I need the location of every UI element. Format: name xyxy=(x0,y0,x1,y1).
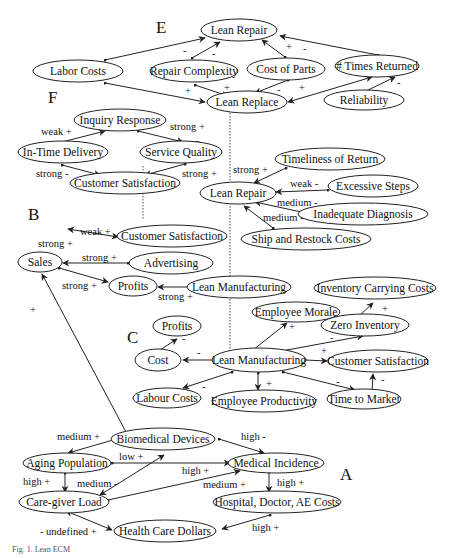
edge-label: - xyxy=(397,77,401,88)
edge-label: high + xyxy=(277,477,304,488)
edge-label: + xyxy=(224,82,230,93)
node-b-sales: Sales xyxy=(18,252,62,272)
edge-label: medium + xyxy=(57,431,100,442)
svg-text:Advertising: Advertising xyxy=(144,257,199,270)
svg-text:Zero Inventory: Zero Inventory xyxy=(330,319,400,332)
svg-text:Profits: Profits xyxy=(162,320,193,332)
edge-label: - xyxy=(381,374,385,385)
edge-label: weak + xyxy=(41,126,72,137)
svg-text:Lean Manufacturing: Lean Manufacturing xyxy=(192,281,286,294)
node-a-health-care-dollars: Health Care Dollars xyxy=(114,520,216,542)
svg-text:Lean Repair: Lean Repair xyxy=(210,187,267,200)
edge-label: strong + xyxy=(182,168,217,179)
section-label-f: F xyxy=(48,88,57,107)
edge-label: weak - xyxy=(290,178,319,189)
svg-text:Reliability: Reliability xyxy=(340,94,389,107)
figure-caption: Fig. 1. Lean ECM xyxy=(12,545,70,554)
edge-label: strong + xyxy=(170,121,205,132)
svg-text:Lean Manufacturing: Lean Manufacturing xyxy=(212,354,306,367)
node-f-in-time-delivery: In-Time Delivery xyxy=(18,141,108,163)
node-c-employee-productivity: Employee Productivity xyxy=(211,390,318,412)
edge-label: + xyxy=(299,82,305,93)
node-a-biomedical-devices: Biomedical Devices xyxy=(111,428,215,450)
node-c-time-to-market: Time to Market xyxy=(327,389,401,409)
svg-text:Employee Productivity: Employee Productivity xyxy=(211,395,318,408)
edge-label: - xyxy=(336,376,340,387)
node-d-ship-restock-costs: Ship and Restock Costs xyxy=(241,228,371,250)
edge-label: - xyxy=(202,381,206,392)
edge-label: strong + xyxy=(38,238,73,249)
svg-text:Customer Satisfaction: Customer Satisfaction xyxy=(327,355,429,367)
node-c-cost: Cost xyxy=(135,349,181,371)
node-a-caregiver-load: Care-giver Load xyxy=(19,491,109,513)
section-label-a: A xyxy=(340,465,353,484)
edge-label: high - xyxy=(241,431,266,442)
svg-text:Time to Market: Time to Market xyxy=(328,393,401,405)
section-label-b: B xyxy=(28,205,39,224)
section-label-e: E xyxy=(156,18,166,37)
svg-text:Employee Morale: Employee Morale xyxy=(255,306,338,319)
node-f-inquiry-response: Inquiry Response xyxy=(74,109,166,131)
node-c-profits: Profits xyxy=(153,316,201,336)
svg-text:Profits: Profits xyxy=(118,280,149,292)
svg-text:Inquiry Response: Inquiry Response xyxy=(80,114,161,127)
svg-text:Excessive Steps: Excessive Steps xyxy=(336,180,410,193)
edge-label: strong + xyxy=(233,164,268,175)
svg-text:Timeliness of Return: Timeliness of Return xyxy=(282,153,379,165)
svg-text:Medical Incidence: Medical Incidence xyxy=(233,457,318,469)
node-c-zero-inventory: Zero Inventory xyxy=(321,314,409,336)
svg-text:Lean Repair: Lean Repair xyxy=(211,24,268,37)
edge-label: high + xyxy=(182,465,209,476)
edge-label: - xyxy=(330,332,334,343)
node-a-hospital-costs: Hospital, Doctor, AE Costs xyxy=(213,491,341,513)
edge-label: medium + xyxy=(203,479,246,490)
svg-text:Care-giver Load: Care-giver Load xyxy=(26,496,102,509)
svg-text:Aging Population: Aging Population xyxy=(26,457,108,470)
node-c-inventory-carrying-costs: Inventory Carrying Costs xyxy=(314,277,436,299)
svg-text:Inadequate Diagnosis: Inadequate Diagnosis xyxy=(313,208,413,221)
node-e-reliability: Reliability xyxy=(324,90,404,110)
edge-label: low + xyxy=(119,451,143,462)
edge-label: medium - xyxy=(277,197,318,208)
edge-label: + xyxy=(185,85,191,96)
edge-label: strong + xyxy=(82,252,117,263)
edge-label: + xyxy=(286,41,292,52)
svg-text:Labor Costs: Labor Costs xyxy=(50,65,106,77)
edge-label: - xyxy=(212,48,216,59)
node-c-labour-costs: Labour Costs xyxy=(133,388,201,408)
edge-label: high + xyxy=(252,522,279,533)
svg-text:Health Care Dollars: Health Care Dollars xyxy=(119,525,211,537)
svg-text:Ship and Restock Costs: Ship and Restock Costs xyxy=(252,233,361,246)
node-b-customer-satisfaction: Customer Satisfaction xyxy=(117,225,227,247)
svg-text:Cost of Parts: Cost of Parts xyxy=(256,63,316,75)
node-d-timeliness-of-return: Timeliness of Return xyxy=(275,148,385,170)
svg-text:Biomedical Devices: Biomedical Devices xyxy=(117,433,210,445)
svg-text:Sales: Sales xyxy=(28,256,53,268)
edge-label: - undefined + xyxy=(40,526,97,537)
edge-label: high + xyxy=(23,476,50,487)
node-e-lean-replace: Lean Replace xyxy=(207,91,287,113)
svg-text:Repair Complexity: Repair Complexity xyxy=(150,65,238,78)
svg-text:Hospital, Doctor, AE Costs: Hospital, Doctor, AE Costs xyxy=(214,496,340,509)
node-b-profits: Profits xyxy=(109,276,157,296)
node-c-lean-manufacturing: Lean Manufacturing xyxy=(212,348,306,372)
svg-text:Inventory Carrying Costs: Inventory Carrying Costs xyxy=(317,282,434,295)
node-d-lean-repair: Lean Repair xyxy=(200,182,276,204)
svg-text:# Times Returned: # Times Returned xyxy=(336,60,418,72)
node-b-advertising: Advertising xyxy=(129,252,213,274)
svg-text:Labour Costs: Labour Costs xyxy=(136,392,198,404)
node-e-times-returned: # Times Returned xyxy=(335,55,419,77)
node-e-lean-repair: Lean Repair xyxy=(201,19,277,41)
node-c-customer-satisfaction: Customer Satisfaction xyxy=(327,350,429,372)
node-b-lean-manufacturing: Lean Manufacturing xyxy=(187,276,291,298)
edge-label: weak + xyxy=(80,226,111,237)
node-f-service-quality: Service Quality xyxy=(140,141,222,163)
section-label-c: C xyxy=(127,328,138,347)
edge-label: + xyxy=(266,378,272,389)
node-a-medical-incidence: Medical Incidence xyxy=(228,453,324,473)
node-e-cost-of-parts: Cost of Parts xyxy=(247,58,325,80)
node-f-customer-satisfaction: Customer Satisfaction xyxy=(70,172,180,194)
edge-label: + xyxy=(30,304,36,315)
svg-text:Customer Satisfaction: Customer Satisfaction xyxy=(74,177,176,189)
node-d-excessive-steps: Excessive Steps xyxy=(328,175,418,197)
